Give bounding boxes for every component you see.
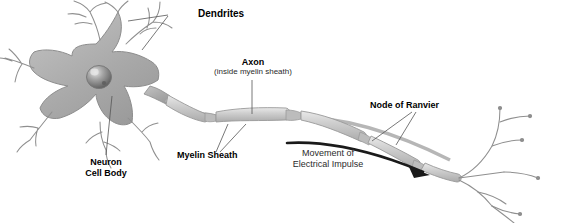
myelin-segment (421, 163, 461, 182)
label-myelin-sheath: Myelin Sheath (177, 150, 238, 160)
leader-dendrites-a (128, 15, 168, 21)
label-node-of-ranvier: Node of Ranvier (370, 100, 439, 110)
label-neuron-cell-body-line1: Neuron (54, 157, 158, 167)
label-dendrites: Dendrites (198, 8, 244, 19)
label-neuron-cell-body-line2: Cell Body (54, 168, 158, 178)
node-of-ranvier (286, 110, 301, 120)
label-axon-sublabel: (inside myelin sheath) (199, 68, 307, 77)
label-axon: Axon (205, 57, 301, 67)
leader-myelin-a (216, 124, 228, 152)
axon-terminals (459, 106, 540, 223)
leader-lines (106, 15, 416, 155)
node-of-ranvier (205, 113, 216, 122)
myelin-segment (166, 95, 208, 122)
nucleus (87, 66, 112, 89)
neuron-diagram-canvas: Dendrites Axon (inside myelin sheath) No… (0, 0, 570, 223)
leader-myelin-b (220, 124, 246, 152)
neuron-illustration (0, 0, 570, 223)
label-movement-line2: Electrical Impulse (269, 159, 387, 169)
myelin-segment (216, 108, 291, 122)
label-movement-line1: Movement of (269, 148, 387, 158)
leader-dendrites-b (142, 16, 168, 50)
